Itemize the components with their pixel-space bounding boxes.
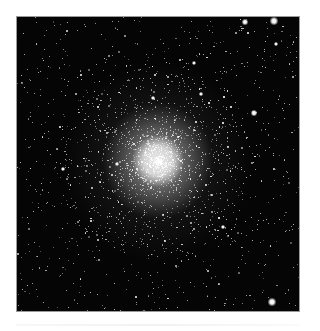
cluster-star xyxy=(212,234,213,235)
cluster-star xyxy=(196,135,197,136)
cluster-star xyxy=(190,198,191,199)
star xyxy=(44,164,45,165)
cluster-star xyxy=(217,182,218,183)
star xyxy=(115,27,116,28)
cluster-star xyxy=(183,67,184,68)
star xyxy=(38,72,39,73)
star xyxy=(264,49,265,50)
cluster-star xyxy=(142,80,143,81)
bright-star xyxy=(251,110,257,116)
cluster-star xyxy=(235,166,237,168)
star xyxy=(48,103,49,104)
cluster-star xyxy=(118,182,120,184)
star xyxy=(116,117,117,118)
star xyxy=(41,210,42,211)
star xyxy=(190,168,191,169)
cluster-star xyxy=(158,162,159,163)
cluster-star xyxy=(144,191,146,193)
cluster-star xyxy=(194,197,195,198)
cluster-star xyxy=(147,110,148,111)
cluster-star xyxy=(218,154,220,156)
cluster-star xyxy=(211,107,212,108)
star xyxy=(224,71,225,72)
star xyxy=(92,74,93,75)
cluster-star xyxy=(65,159,66,160)
star xyxy=(80,278,82,280)
cluster-star xyxy=(171,180,173,182)
cluster-star xyxy=(131,180,132,181)
cluster-star xyxy=(140,106,141,107)
star xyxy=(72,206,73,207)
cluster-star xyxy=(105,227,106,228)
star xyxy=(241,125,242,126)
cluster-star xyxy=(193,133,195,135)
cluster-star xyxy=(122,240,123,241)
star xyxy=(177,307,178,308)
cluster-star xyxy=(140,165,141,166)
cluster-star xyxy=(108,241,109,242)
star xyxy=(102,305,103,306)
cluster-star xyxy=(167,76,169,78)
cluster-star xyxy=(89,211,90,212)
cluster-star xyxy=(191,98,192,99)
star xyxy=(154,173,155,174)
star xyxy=(208,184,209,185)
star xyxy=(97,294,98,295)
cluster-star xyxy=(218,159,220,161)
cluster-star xyxy=(164,158,165,159)
star xyxy=(201,179,202,180)
star xyxy=(152,54,153,55)
cluster-star xyxy=(174,120,175,121)
cluster-star xyxy=(144,200,145,201)
star xyxy=(296,51,297,52)
cluster-star xyxy=(137,135,138,136)
cluster-star xyxy=(155,169,156,170)
cluster-star xyxy=(123,227,124,228)
cluster-star xyxy=(193,115,194,116)
star xyxy=(233,304,234,305)
star xyxy=(255,80,256,81)
star xyxy=(229,158,230,159)
star xyxy=(67,22,68,23)
cluster-star xyxy=(176,189,178,191)
star xyxy=(152,282,153,283)
star xyxy=(220,71,222,73)
star xyxy=(117,189,119,191)
star xyxy=(123,85,124,86)
cluster-star xyxy=(155,107,156,108)
cluster-star xyxy=(201,213,203,215)
cluster-star xyxy=(167,154,169,156)
cluster-star xyxy=(171,143,172,144)
cluster-star xyxy=(118,185,119,186)
star xyxy=(177,76,178,77)
cluster-star xyxy=(78,112,80,114)
star xyxy=(165,179,166,180)
cluster-star xyxy=(123,217,125,219)
cluster-star xyxy=(219,163,220,164)
cluster-star xyxy=(177,136,179,138)
cluster-star xyxy=(154,250,155,251)
cluster-star xyxy=(236,218,238,220)
star xyxy=(244,131,246,133)
star xyxy=(239,30,240,31)
cluster-star xyxy=(130,95,132,97)
star xyxy=(65,269,66,270)
star xyxy=(195,36,196,37)
star xyxy=(171,212,172,213)
star xyxy=(75,208,76,209)
cluster-star xyxy=(107,94,108,95)
star xyxy=(63,137,64,138)
star xyxy=(32,122,33,123)
cluster-star xyxy=(107,114,108,115)
star xyxy=(36,161,37,162)
star xyxy=(270,245,272,247)
star xyxy=(215,213,216,214)
star xyxy=(129,202,130,203)
cluster-star xyxy=(140,137,141,138)
star xyxy=(94,210,95,211)
star xyxy=(226,71,228,73)
cluster-star xyxy=(123,181,124,182)
cluster-star xyxy=(94,120,95,121)
star xyxy=(265,150,266,151)
star xyxy=(162,285,163,286)
